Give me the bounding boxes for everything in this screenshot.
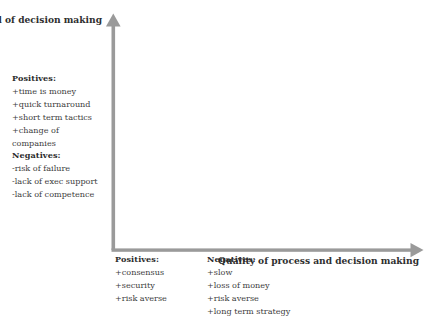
y-axis-arrowhead <box>106 14 121 27</box>
x-axis-line <box>112 248 413 251</box>
upper-left-positive-item: +time is money <box>12 85 98 98</box>
y-axis-title-line-1: Speed of <box>0 14 15 25</box>
bottom-right-negative-item: +risk averse <box>207 292 290 305</box>
bottom-right-negatives-heading: Negatives: <box>207 253 290 266</box>
y-axis-title: Speed of decision making <box>0 14 102 26</box>
bottom-left-positive-item: +consensus <box>115 266 167 279</box>
upper-left-negatives-heading: Negatives: <box>12 149 98 162</box>
y-axis-line <box>112 24 116 250</box>
quadrant-bottom-right-text: Negatives: +slow +loss of money +risk av… <box>207 253 290 318</box>
upper-left-negative-item: -lack of exec support <box>12 175 98 188</box>
bottom-right-negative-item: +slow <box>207 266 290 279</box>
upper-left-positive-item: +change of <box>12 124 98 137</box>
quadrant-bottom-left-text: Positives: +consensus +security +risk av… <box>115 253 167 305</box>
upper-left-positive-item: +quick turnaround <box>12 98 98 111</box>
upper-left-positive-item: +short term tactics <box>12 111 98 124</box>
upper-left-negative-item: -lack of competence <box>12 188 98 201</box>
bottom-left-positive-item: +risk averse <box>115 292 167 305</box>
x-axis-title-line-2: decision making <box>335 255 419 266</box>
diagram-canvas: Speed of decision making Quality of proc… <box>0 0 432 330</box>
upper-left-negative-item: -risk of failure <box>12 162 98 175</box>
bottom-right-negative-item: +long term strategy <box>207 305 290 318</box>
y-axis-title-line-2: decision <box>18 14 60 25</box>
upper-left-positive-item: companies <box>12 137 98 150</box>
upper-left-positives-heading: Positives: <box>12 72 98 85</box>
quadrant-upper-left-text: Positives: +time is money +quick turnaro… <box>12 72 98 201</box>
bottom-left-positives-heading: Positives: <box>115 253 167 266</box>
bottom-left-positive-item: +security <box>115 279 167 292</box>
y-axis-title-line-3: making <box>64 14 102 25</box>
bottom-right-negative-item: +loss of money <box>207 279 290 292</box>
